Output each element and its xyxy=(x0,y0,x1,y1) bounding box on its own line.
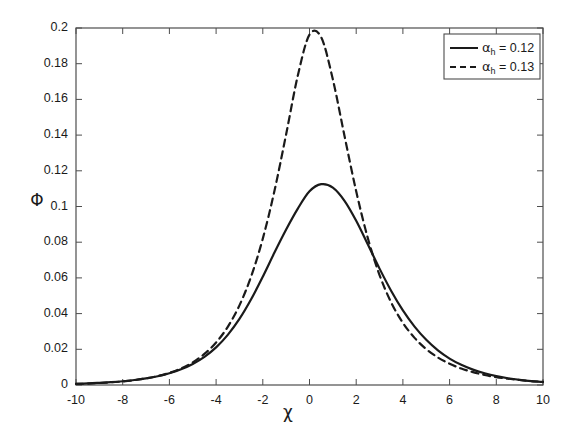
x-tick-label: -8 xyxy=(98,393,148,407)
legend-alpha-symbol: α xyxy=(482,59,491,74)
x-tick-label: -4 xyxy=(191,393,241,407)
y-tick-label: 0.06 xyxy=(8,270,68,284)
x-tick-label: 0 xyxy=(285,393,335,407)
legend-equals: = xyxy=(496,60,510,74)
x-tick-label: -2 xyxy=(238,393,288,407)
y-tick-label: 0.1 xyxy=(8,199,68,213)
x-tick-label: 6 xyxy=(425,393,475,407)
x-tick-label: -10 xyxy=(51,393,101,407)
y-tick-label: 0.12 xyxy=(8,163,68,177)
x-tick-label: 4 xyxy=(378,393,428,407)
x-tick-label: -6 xyxy=(144,393,194,407)
legend-equals: = xyxy=(496,41,510,55)
legend-entry-2: αh = 0.13 xyxy=(482,59,534,76)
y-tick-label: 0.14 xyxy=(8,127,68,141)
y-tick-label: 0.02 xyxy=(8,341,68,355)
legend-entry-1: αh = 0.12 xyxy=(482,40,534,57)
x-tick-label: 8 xyxy=(471,393,521,407)
legend-alpha-symbol: α xyxy=(482,40,491,55)
y-tick-label: 0.04 xyxy=(8,306,68,320)
x-tick-label: 10 xyxy=(518,393,568,407)
y-tick-label: 0 xyxy=(8,377,68,391)
y-tick-label: 0.08 xyxy=(8,234,68,248)
y-tick-label: 0.2 xyxy=(8,20,68,34)
x-tick-label: 2 xyxy=(331,393,381,407)
legend-value: 0.13 xyxy=(510,60,534,74)
axes-frame xyxy=(76,28,543,385)
y-tick-label: 0.18 xyxy=(8,56,68,70)
legend-value: 0.12 xyxy=(510,41,534,55)
y-tick-label: 0.16 xyxy=(8,91,68,105)
figure-canvas: Φ χ 00.020.040.060.080.10.120.140.160.18… xyxy=(0,0,576,442)
